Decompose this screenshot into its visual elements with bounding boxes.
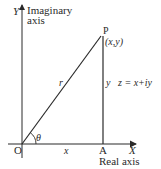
- origin-label: O: [14, 144, 22, 156]
- horizontal-leg-x-label: x: [63, 145, 69, 156]
- argand-diagram: Y Imaginary axis P (x,y) r y z = x+iy θ …: [0, 0, 161, 169]
- y-axis-letter: Y: [13, 5, 21, 17]
- equation-label: z = x+iy: [117, 77, 153, 88]
- point-coords-label: (x,y): [105, 36, 124, 48]
- angle-theta-label: θ: [36, 132, 41, 143]
- y-axis-name-line2: axis: [27, 14, 45, 26]
- vertical-leg-y-label: y: [105, 77, 111, 88]
- radius-line-op: [22, 36, 101, 144]
- point-p-label: P: [103, 25, 109, 36]
- x-axis-name: Real axis: [99, 155, 140, 167]
- hypotenuse-r-label: r: [59, 77, 63, 88]
